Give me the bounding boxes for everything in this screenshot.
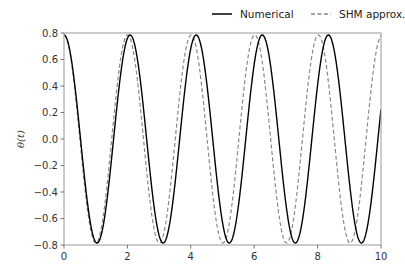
legend-label-numerical: Numerical <box>240 8 294 20</box>
y-tick-label: 0.8 <box>42 28 58 39</box>
legend-label-shm: SHM approx. <box>339 8 405 20</box>
plot-area <box>64 35 381 243</box>
y-tick-label: 0.2 <box>42 107 58 118</box>
x-tick-label: 4 <box>188 251 194 262</box>
x-tick-label: 0 <box>61 251 67 262</box>
y-tick-label: −0.6 <box>34 213 58 224</box>
y-tick-label: −0.4 <box>34 187 58 198</box>
x-tick-label: 6 <box>251 251 257 262</box>
x-tick-label: 2 <box>124 251 130 262</box>
y-tick-label: −0.8 <box>34 240 58 251</box>
y-tick-label: 0.6 <box>42 54 58 65</box>
y-tick-label: −0.2 <box>34 160 58 171</box>
shm-approx-line <box>64 35 381 243</box>
numerical-line <box>64 35 381 243</box>
x-tick-label: 8 <box>314 251 320 262</box>
axes-frame <box>64 33 381 245</box>
y-tick-label: 0.0 <box>42 134 58 145</box>
x-tick-label: 10 <box>375 251 388 262</box>
y-tick-label: 0.4 <box>42 81 58 92</box>
pendulum-chart: Numerical SHM approx. 0246810−0.8−0.6−0.… <box>0 0 405 275</box>
legend: Numerical SHM approx. <box>212 8 405 20</box>
y-axis-label: θ(t) <box>15 130 26 148</box>
